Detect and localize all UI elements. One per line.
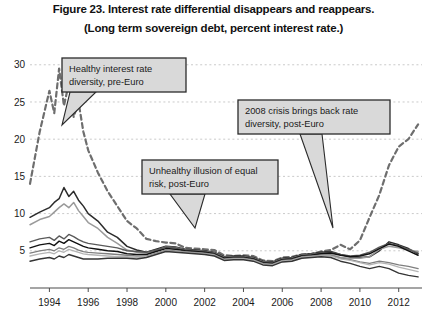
- y-tick-label: 30: [14, 59, 26, 70]
- annotation-text-line: 2008 crisis brings back rate: [245, 106, 358, 116]
- x-tick-label: 2012: [388, 297, 411, 308]
- annotation-text-line: risk, post-Euro: [149, 179, 209, 189]
- y-tick-label: 10: [14, 208, 26, 219]
- y-tick-label: 20: [14, 134, 26, 145]
- series-line-spain-mid: [30, 202, 418, 262]
- annotation-text-line: Unhealthy illusion of equal: [149, 166, 258, 176]
- y-axis-tick-labels: 51015202530: [14, 59, 26, 256]
- y-tick-label: 5: [19, 245, 25, 256]
- y-tick-label: 25: [14, 97, 26, 108]
- x-axis-tick-labels: 1994199619982000200220042006200820102012: [38, 297, 410, 308]
- x-tick-label: 2002: [194, 297, 217, 308]
- axis-layer: [30, 288, 422, 292]
- x-tick-label: 2010: [349, 297, 372, 308]
- line-chart: 51015202530 1994199619982000200220042006…: [0, 0, 427, 326]
- x-tick-label: 2006: [271, 297, 294, 308]
- x-tick-label: 2000: [155, 297, 178, 308]
- figure-container: Figure 23. Interest rate differential di…: [0, 0, 427, 326]
- annotation-text-line: diversity, pre-Euro: [69, 77, 144, 87]
- x-tick-label: 1994: [38, 297, 61, 308]
- x-tick-label: 1996: [77, 297, 100, 308]
- y-tick-label: 15: [14, 171, 26, 182]
- annotation-text-line: diversity, post-Euro: [245, 119, 324, 129]
- annotation-unhealthy-illusion: Unhealthy illusion of equalrisk, post-Eu…: [142, 160, 278, 228]
- x-tick-label: 1998: [116, 297, 139, 308]
- annotation-text-line: Healthy interest rate: [69, 64, 152, 74]
- x-tick-label: 2004: [232, 297, 255, 308]
- annotation-layer: Healthy interest ratediversity, pre-Euro…: [62, 58, 390, 228]
- x-tick-label: 2008: [310, 297, 333, 308]
